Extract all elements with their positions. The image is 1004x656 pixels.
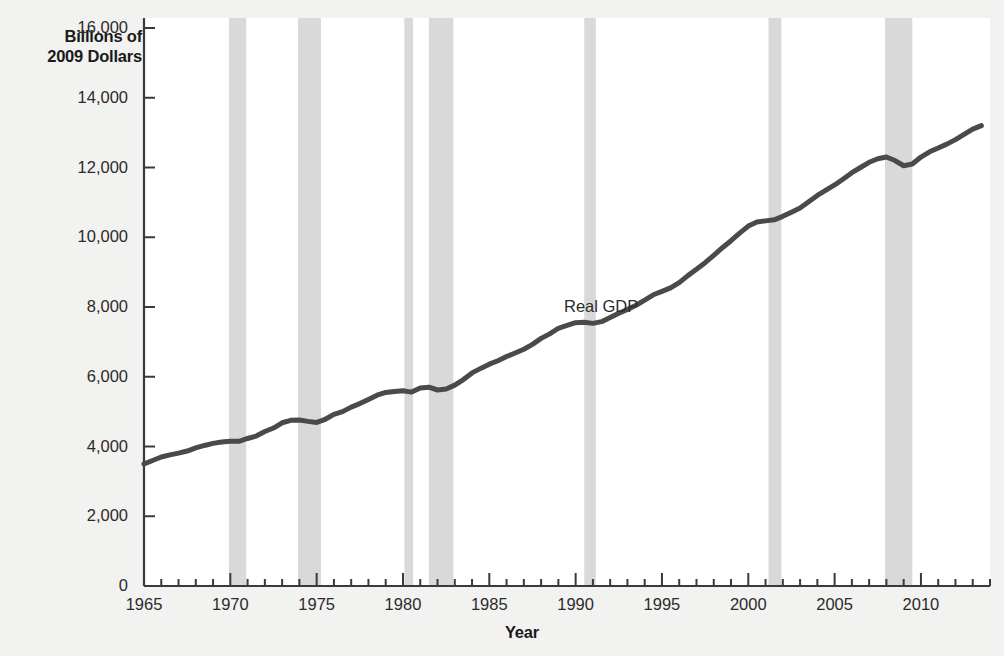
y-tick-label-0: 0 [0, 576, 128, 595]
y-tick-label-4000: 4,000 [0, 437, 128, 456]
x-tick-label-1975: 1975 [298, 595, 335, 614]
real-gdp-chart-figure: Billions of 2009 Dollars 02,0004,0006,00… [0, 0, 1004, 656]
chart-plot-area [0, 0, 1004, 656]
y-tick-label-10000: 10,000 [0, 227, 128, 246]
x-tick-label-2010: 2010 [903, 595, 940, 614]
x-axis-title: Year [0, 623, 1004, 642]
y-tick-label-8000: 8,000 [0, 297, 128, 316]
x-tick-label-1990: 1990 [557, 595, 594, 614]
x-tick-label-2005: 2005 [816, 595, 853, 614]
y-tick-label-12000: 12,000 [0, 158, 128, 177]
x-tick-label-1985: 1985 [471, 595, 508, 614]
x-tick-label-1980: 1980 [385, 595, 422, 614]
recession-band-6 [885, 18, 912, 586]
recession-band-3 [429, 18, 454, 586]
recession-band-5 [768, 18, 781, 586]
x-axis-title-text: Year [505, 623, 539, 641]
recession-band-0 [229, 18, 246, 586]
recession-band-1 [298, 18, 321, 586]
y-tick-label-2000: 2,000 [0, 506, 128, 525]
y-tick-label-6000: 6,000 [0, 367, 128, 386]
x-tick-label-1965: 1965 [126, 595, 163, 614]
y-tick-label-14000: 14,000 [0, 88, 128, 107]
x-tick-label-2000: 2000 [730, 595, 767, 614]
x-tick-label-1970: 1970 [212, 595, 249, 614]
x-tick-label-1995: 1995 [644, 595, 681, 614]
y-tick-label-16000: 16,000 [0, 18, 128, 37]
series-annotation-real-gdp: Real GDP [564, 297, 638, 316]
recession-band-2 [404, 18, 413, 586]
